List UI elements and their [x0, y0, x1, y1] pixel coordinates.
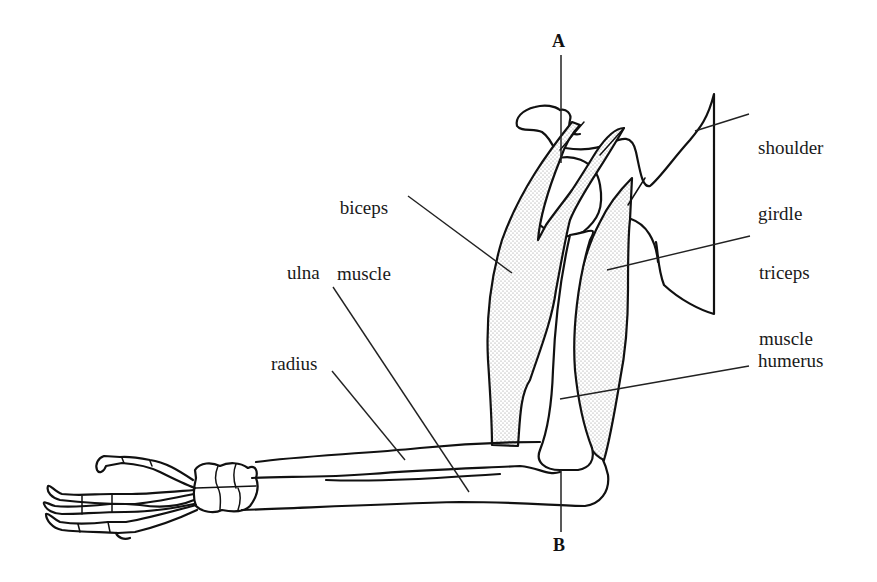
marker-a: A [552, 31, 565, 52]
marker-b: B [553, 535, 565, 556]
label-triceps-muscle: triceps muscle [759, 218, 813, 372]
label-biceps-line2: muscle [337, 263, 391, 285]
label-shoulder-girdle-line1: shoulder [758, 137, 823, 159]
arm-anatomy-diagram [0, 0, 877, 582]
label-triceps-line1: triceps [759, 262, 813, 284]
label-biceps-line1: biceps [337, 197, 391, 219]
leader-biceps [408, 196, 512, 273]
leader-radius [332, 371, 405, 460]
label-radius: radius [271, 353, 317, 375]
label-biceps-muscle: biceps muscle [337, 153, 391, 307]
label-ulna: ulna [287, 262, 320, 284]
label-humerus: humerus [758, 350, 823, 372]
wrist-carpals [194, 463, 258, 512]
hand-bones [44, 456, 197, 539]
leader-ulna [333, 287, 469, 492]
label-triceps-line2: muscle [759, 328, 813, 350]
